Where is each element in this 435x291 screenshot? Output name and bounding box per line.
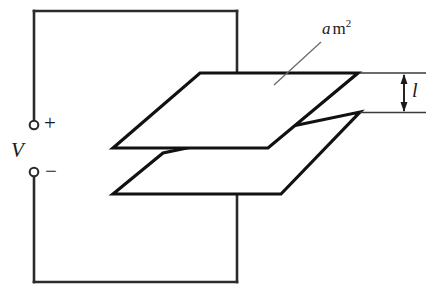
dimension-arrowhead-up [401,74,408,84]
plate-separation-label: l [412,80,418,100]
negative-terminal-label: − [45,161,57,182]
plate-area-exponent: 2 [346,17,352,29]
negative-terminal-icon [30,168,39,177]
positive-terminal-icon [30,121,39,130]
plate-area-label: am2 [322,18,351,37]
plate-area-symbol: a [322,19,331,38]
dimension-arrowhead-down [401,102,408,112]
positive-terminal-label: + [44,113,56,134]
plate-area-unit: m [333,19,346,38]
voltage-source-label: V [11,140,24,161]
figure-canvas [0,0,435,291]
capacitor-figure: V + − l am2 [0,0,435,291]
source-terminals-group [30,121,39,177]
